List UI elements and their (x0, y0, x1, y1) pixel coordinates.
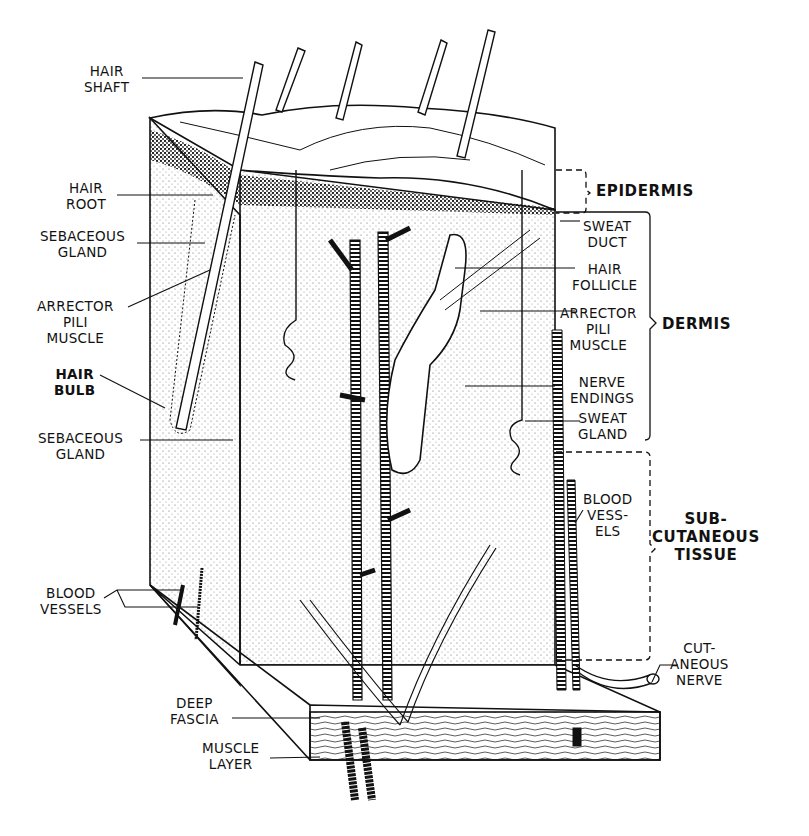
label-line: EPIDERMIS (596, 182, 694, 200)
label-line: CUT- (670, 640, 729, 656)
label-line: VESSELS (40, 601, 102, 617)
label-sebaceous-gland-upper: SEBACEOUS GLAND (40, 228, 125, 260)
label-line: FOLLICLE (572, 277, 637, 293)
label-sweat-gland: SWEAT GLAND (578, 410, 628, 442)
label-line: GLAND (40, 244, 125, 260)
label-line: FASCIA (170, 711, 219, 727)
label-line: NERVE (570, 374, 634, 390)
label-line: ANEOUS (670, 656, 729, 672)
label-line: HAIR (572, 261, 637, 277)
label-nerve-endings: NERVE ENDINGS (570, 374, 634, 406)
label-cutaneous-nerve: CUT- ANEOUS NERVE (670, 640, 729, 688)
label-line: GLAND (578, 426, 628, 442)
label-blood-vessels-right: BLOOD VESS- ELS (583, 491, 632, 539)
label-line: VESS- (583, 507, 632, 523)
label-line: ROOT (66, 196, 106, 212)
label-line: NERVE (670, 672, 729, 688)
label-line: SHAFT (84, 79, 129, 95)
label-deep-fascia: DEEP FASCIA (170, 695, 219, 727)
label-hair-root: HAIR ROOT (66, 180, 106, 212)
label-line: DERMIS (662, 315, 731, 333)
label-hair-bulb: HAIR BULB (54, 366, 95, 398)
label-line: SWEAT (578, 410, 628, 426)
label-line: DUCT (583, 234, 631, 250)
label-hair-follicle: HAIR FOLLICLE (572, 261, 637, 293)
label-line: DEEP (170, 695, 219, 711)
label-sweat-duct: SWEAT DUCT (583, 218, 631, 250)
label-line: ELS (583, 523, 632, 539)
layer-label-subcutaneous: SUB- CUTANEOUS TISSUE (652, 510, 760, 564)
label-line: MUSCLE (37, 330, 114, 346)
label-line: HAIR (54, 366, 95, 382)
label-arrector-pili-left: ARRECTOR PILI MUSCLE (37, 298, 114, 346)
label-line: SEBACEOUS (40, 228, 125, 244)
skin-cross-section-illustration (0, 0, 809, 836)
label-muscle-layer: MUSCLE LAYER (202, 740, 259, 772)
label-line: PILI (37, 314, 114, 330)
label-line: LAYER (202, 756, 259, 772)
label-line: GLAND (38, 446, 123, 462)
label-line: HAIR (66, 180, 106, 196)
label-line: SEBACEOUS (38, 430, 123, 446)
label-line: SWEAT (583, 218, 631, 234)
label-sebaceous-gland-lower: SEBACEOUS GLAND (38, 430, 123, 462)
label-line: TISSUE (652, 546, 760, 564)
label-line: HAIR (84, 63, 129, 79)
label-hair-shaft: HAIR SHAFT (84, 63, 129, 95)
layer-label-dermis: DERMIS (662, 315, 731, 333)
label-line: MUSCLE (202, 740, 259, 756)
label-line: ARRECTOR (37, 298, 114, 314)
label-arrector-pili-right: ARRECTOR PILI MUSCLE (560, 305, 637, 353)
label-line: PILI (560, 321, 637, 337)
layer-label-epidermis: EPIDERMIS (596, 182, 694, 200)
label-line: BLOOD (40, 585, 102, 601)
label-line: MUSCLE (560, 337, 637, 353)
label-blood-vessels-left: BLOOD VESSELS (40, 585, 102, 617)
label-line: CUTANEOUS (652, 528, 760, 546)
label-line: BLOOD (583, 491, 632, 507)
label-line: BULB (54, 382, 95, 398)
label-line: ENDINGS (570, 390, 634, 406)
label-line: SUB- (652, 510, 760, 528)
label-line: ARRECTOR (560, 305, 637, 321)
